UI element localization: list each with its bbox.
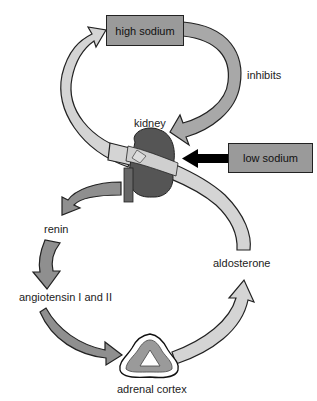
kidney-label: kidney bbox=[134, 118, 166, 129]
inhibits-label: inhibits bbox=[247, 70, 281, 81]
arrow-adrenal-to-aldosterone bbox=[172, 280, 254, 364]
low-sodium-label: low sodium bbox=[243, 152, 298, 164]
arrow-kidney-to-renin bbox=[62, 182, 121, 215]
adrenal-cortex-label: adrenal cortex bbox=[117, 384, 187, 395]
low-sodium-box: low sodium bbox=[228, 143, 313, 173]
aldosterone-label: aldosterone bbox=[213, 258, 271, 269]
arrow-angiotensin-to-adrenal bbox=[40, 308, 122, 365]
feedback-loop-diagram bbox=[0, 0, 317, 401]
renin-label: renin bbox=[44, 224, 68, 235]
kidney-icon bbox=[124, 128, 178, 202]
angiotensin-label: angiotensin I and II bbox=[19, 292, 112, 303]
high-sodium-box: high sodium bbox=[106, 15, 184, 46]
arrow-low-sodium-to-kidney bbox=[182, 149, 229, 168]
adrenal-cortex-icon bbox=[120, 334, 179, 377]
high-sodium-label: high sodium bbox=[115, 25, 174, 37]
arrow-renin-to-angiotensin bbox=[33, 240, 60, 289]
